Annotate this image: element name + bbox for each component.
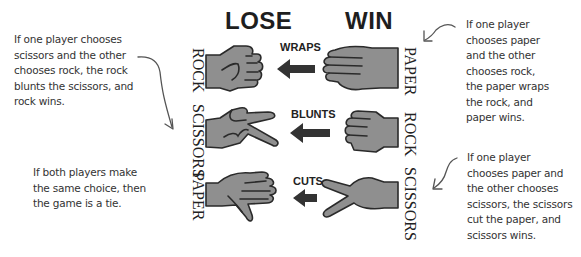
row2-arrow-icon — [290, 123, 330, 143]
note-arrow-rock-head-icon — [165, 119, 173, 129]
paper-hand-icon — [323, 47, 398, 90]
note-arrow-scissors-icon — [434, 158, 457, 188]
row1-arrow-icon — [277, 59, 315, 79]
row3-arrow-icon — [293, 189, 317, 207]
note-tie: If both players make the same choice, th… — [33, 165, 146, 212]
note-scissors-vs-paper: If one player chooses paper and the othe… — [467, 150, 572, 243]
scissors-hand-icon-winner — [322, 178, 398, 217]
rock-fist-icon — [206, 46, 263, 91]
scissors-hand-icon — [206, 108, 278, 148]
note-paper-vs-rock: If one player chooses paper and the othe… — [466, 17, 549, 126]
note-rock-vs-scissors: If one player chooses scissors and the o… — [14, 32, 133, 110]
rock-fist-icon-winner — [345, 111, 398, 152]
note-arrow-rock-icon — [138, 57, 172, 127]
paper-hand-icon-loser — [206, 172, 276, 221]
note-arrow-paper-icon — [425, 25, 455, 40]
